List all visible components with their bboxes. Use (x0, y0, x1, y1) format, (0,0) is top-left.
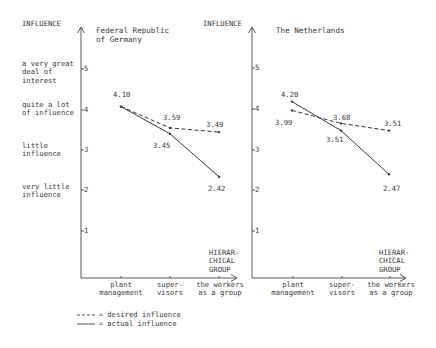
left-value-label-plant: 4.10 (113, 91, 130, 99)
left-x-label-supervisors: super- visors (150, 281, 190, 298)
left-y-tick-4: 4 (84, 106, 88, 114)
data-point-marker (218, 176, 220, 178)
data-point-marker (169, 127, 171, 129)
right-y-tick-4: 4 (255, 105, 259, 113)
left-y-tick-3: 3 (84, 146, 88, 154)
data-point-marker (218, 131, 220, 133)
right-chart-title: The Netherlands (276, 27, 345, 35)
right-value-label-plant-desired: 3.99 (275, 119, 292, 127)
right-value-label-plant-actual: 4.20 (281, 91, 298, 99)
data-point-marker (291, 100, 293, 102)
left-value-label-workers-actual: 2.42 (208, 185, 225, 193)
left-value-label-sup-desired: 3.59 (163, 114, 180, 122)
left-x-label-workers: the workers as a group (192, 281, 248, 298)
left-y-tick-2: 2 (84, 186, 88, 194)
y-category-label-very-great: a very great deal of interest (22, 60, 74, 85)
data-point-marker (388, 173, 390, 175)
right-value-label-workers-desired: 3.51 (384, 120, 401, 128)
y-category-label-very-little: very little influence (22, 183, 70, 200)
right-y-tick-3: 3 (255, 146, 259, 154)
right-y-tick-2: 2 (255, 186, 259, 194)
left-y-tick-1: 1 (84, 227, 88, 235)
right-x-label-plant-management: plant management (268, 281, 318, 298)
data-point-marker (388, 129, 390, 131)
right-value-label-sup-actual: 3.51 (326, 136, 343, 144)
data-point-marker (291, 109, 293, 111)
left-x-axis-title: HIERAR- CHICAL GROUP (209, 249, 239, 274)
right-y-axis-title: INFLUENCE (203, 20, 242, 28)
y-category-label-quite-a-lot: quite a lot of influence (22, 101, 74, 118)
left-chart-title: Federal Republic of Germany (96, 27, 169, 44)
left-y-tick-5: 5 (84, 65, 88, 73)
left-value-label-workers-desired: 3.49 (206, 121, 223, 129)
data-point-marker (120, 105, 122, 107)
left-x-label-plant-management: plant management (96, 281, 146, 298)
data-point-marker (169, 133, 171, 135)
right-y-tick-1: 1 (255, 227, 259, 235)
data-point-marker (340, 129, 342, 131)
left-y-axis-title: INFLUENCE (22, 20, 61, 28)
data-point-marker (340, 122, 342, 124)
right-y-tick-5: 5 (255, 64, 259, 72)
right-value-label-workers-actual: 2.47 (383, 185, 400, 193)
y-category-label-little: little influence (22, 142, 61, 159)
legend-actual: = actual influence (77, 320, 177, 328)
right-value-label-sup-desired: 3.68 (333, 114, 350, 122)
right-x-axis-title: HIERAR- CHICAL GROUP (379, 249, 409, 274)
right-x-label-supervisors: super- visors (322, 281, 362, 298)
left-value-label-sup-actual: 3.45 (153, 142, 170, 150)
right-x-label-workers: the workers as a group (363, 281, 419, 298)
